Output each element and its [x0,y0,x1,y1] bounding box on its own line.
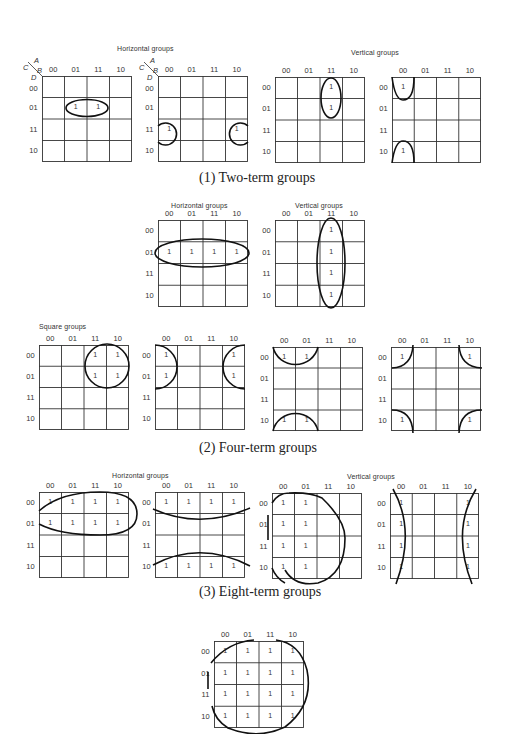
row-label: 11 [140,541,153,550]
axis-label-d: D [147,73,153,82]
col-label: 10 [110,65,133,74]
kmap-two-h1: ABCD000111100001111011 [42,76,132,162]
cell-value: 1 [84,372,107,379]
cell-value: 1 [457,520,479,527]
row-label: 11 [260,126,273,135]
cell-value: 1 [320,269,343,276]
col-label: 10 [223,481,246,490]
cell-value: 1 [84,351,107,358]
col-label: 00 [275,66,298,75]
cell-value: 1 [296,353,319,360]
row-label: 00 [27,84,40,93]
cell-value: 1 [391,416,414,423]
cell-value: 1 [282,647,305,654]
col-label: 00 [390,482,412,491]
cell-value: 1 [457,542,479,549]
col-label: 00 [272,482,295,491]
kmap-four-h: 00011110000111101111 [158,220,248,307]
row-label: 11 [24,393,37,402]
col-label: 11 [317,482,340,491]
row-label: 00 [260,226,273,235]
cell-value: 1 [320,104,343,111]
cell-value: 1 [295,499,318,506]
cell-value: 1 [259,690,282,697]
cell-value: 1 [155,372,178,379]
kmap-grid [155,345,245,430]
kmap-four-s2: 00011110000111101111 [155,345,245,430]
kmap-sixteen: 00011110000111101111111111111111 [214,641,304,728]
col-label: 01 [298,66,321,75]
cell-value: 1 [237,647,260,654]
row-label: 01 [377,104,390,113]
kmap-four-v: 00011110000111101111 [275,220,365,307]
col-label: 00 [39,334,62,343]
col-label: 10 [282,630,305,639]
label-vertical-groups-two: Vertical groups [351,49,399,56]
kmap-eight-v2: 000111100001111011111111 [390,493,479,579]
row-label: 10 [24,414,37,423]
kmap-two-v1: 000111100001111011 [275,77,365,163]
row-label: 11 [260,269,273,278]
cell-value: 1 [39,519,62,526]
col-label: 00 [391,336,414,345]
col-label: 01 [181,65,204,74]
col-label: 01 [62,481,85,490]
row-label: 11 [143,269,156,278]
col-label: 10 [223,334,246,343]
cell-value: 1 [296,416,319,423]
cell-value: 1 [214,712,237,719]
col-label: 10 [459,336,482,345]
row-label: 10 [377,147,390,156]
col-label: 00 [158,65,181,74]
cell-value: 1 [200,498,223,505]
col-label: 00 [158,209,181,218]
col-label: 00 [155,481,178,490]
row-label: 01 [376,374,389,383]
row-label: 00 [140,351,153,360]
cell-value: 1 [320,226,343,233]
axis-label-d: D [31,73,37,82]
col-label: 01 [237,630,260,639]
cell-value: 1 [259,669,282,676]
cell-value: 1 [158,125,181,132]
row-label: 00 [376,353,389,362]
axis-label-c: C [139,63,145,72]
row-label: 00 [140,498,153,507]
cell-value: 1 [237,712,260,719]
row-label: 01 [24,372,37,381]
col-label: 10 [226,209,249,218]
kmap-grid [39,345,129,430]
col-label: 01 [414,336,437,345]
axis-label-c: C [23,63,29,72]
col-label: 01 [65,65,88,74]
row-label: 10 [27,146,40,155]
label-horizontal-groups-eight: Horizontal groups [112,472,169,479]
row-label: 10 [257,563,270,572]
cell-value: 1 [392,147,414,154]
col-label: 11 [435,482,457,491]
cell-value: 1 [390,542,412,549]
cell-value: 1 [390,499,412,506]
row-label: 01 [375,520,388,529]
kmap-eight-v1: 000111100001111011111111 [272,493,362,579]
cell-value: 1 [200,562,223,569]
label-vertical-groups-eight: Vertical groups [347,473,395,480]
col-label: 10 [340,482,363,491]
col-label: 01 [178,481,201,490]
cell-value: 1 [203,248,226,255]
cell-value: 1 [155,562,178,569]
row-label: 00 [24,498,37,507]
row-label: 00 [377,83,390,92]
col-label: 11 [320,66,343,75]
row-label: 11 [376,395,389,404]
row-label: 01 [24,519,37,528]
row-label: 10 [199,712,212,721]
kmap-grid: ABCD [158,76,248,162]
col-label: 00 [275,209,298,218]
kmap-two-v2: 000111100001111011 [392,77,481,163]
row-label: 01 [257,520,270,529]
cell-value: 1 [272,499,295,506]
col-label: 10 [107,481,130,490]
row-label: 11 [375,542,388,551]
col-label: 11 [259,630,282,639]
